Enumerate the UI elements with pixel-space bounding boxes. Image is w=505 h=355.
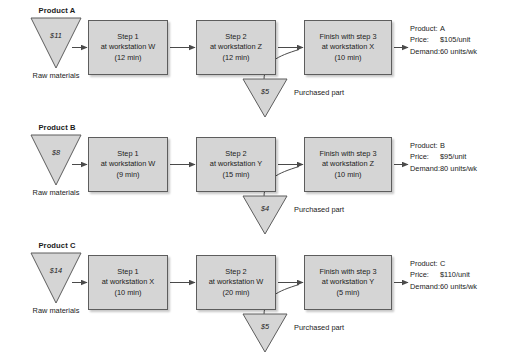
- step-station: at workstation W: [101, 159, 156, 170]
- process-box-step1: Step 1 at workstation W (9 min): [88, 137, 168, 192]
- step-title: Step 1: [117, 32, 138, 43]
- info-demand-line: Demand: 60 units/wk: [410, 281, 477, 292]
- step-title: Finish with step 3: [319, 149, 376, 160]
- purchased-part-caption: Purchased part: [294, 205, 344, 214]
- process-box-step2: Step 2 at workstation W (20 min): [196, 255, 276, 310]
- product-label: Product C: [22, 241, 92, 250]
- info-price-line: Price: $105/unit: [410, 34, 477, 45]
- info-demand-key: Demand:: [410, 46, 440, 57]
- step-station: at workstation Z: [322, 159, 374, 170]
- info-demand-value: 60 units/wk: [440, 281, 477, 292]
- info-price-key: Price:: [410, 34, 440, 45]
- raw-materials-triangle: $14: [30, 252, 82, 304]
- purchased-part-caption: Purchased part: [294, 323, 344, 332]
- info-price-line: Price: $110/unit: [410, 269, 477, 280]
- info-product-key: Product:: [410, 140, 440, 151]
- process-box-step1: Step 1 at workstation W (12 min): [88, 20, 168, 75]
- step-time: (10 min): [114, 288, 141, 299]
- info-price-key: Price:: [410, 151, 440, 162]
- process-box-step3: Finish with step 3 at workstation Y (5 m…: [304, 255, 392, 310]
- product-flow-row: Product C $14 Raw materials Step 1 at wo…: [0, 235, 505, 350]
- info-product-line: Product: C: [410, 258, 477, 269]
- step-station: at workstation Y: [210, 159, 262, 170]
- process-box-step2: Step 2 at workstation Z (12 min): [196, 20, 276, 75]
- info-price-value: $105/unit: [440, 34, 470, 45]
- purchased-part-caption: Purchased part: [294, 88, 344, 97]
- process-box-step2: Step 2 at workstation Y (15 min): [196, 137, 276, 192]
- purchased-part-triangle: $5: [242, 78, 288, 118]
- product-label: Product B: [22, 123, 92, 132]
- step-time: (12 min): [114, 53, 141, 64]
- step-station: at workstation W: [209, 277, 264, 288]
- purchased-part-triangle: $5: [242, 313, 288, 353]
- raw-materials-triangle: $11: [30, 17, 82, 69]
- info-demand-key: Demand:: [410, 281, 440, 292]
- step-station: at workstation X: [322, 42, 375, 53]
- raw-materials-triangle: $8: [30, 134, 82, 186]
- step-time: (10 min): [334, 53, 361, 64]
- step-title: Finish with step 3: [319, 32, 376, 43]
- process-box-step3: Finish with step 3 at workstation X (10 …: [304, 20, 392, 75]
- step-title: Step 1: [117, 267, 138, 278]
- process-box-step1: Step 1 at workstation X (10 min): [88, 255, 168, 310]
- output-info-block: Product: C Price: $110/unit Demand: 60 u…: [410, 258, 477, 292]
- step-title: Step 2: [225, 32, 246, 43]
- product-label: Product A: [22, 6, 92, 15]
- step-time: (12 min): [222, 53, 249, 64]
- step-title: Finish with step 3: [319, 267, 376, 278]
- info-demand-key: Demand:: [410, 163, 440, 174]
- step-station: at workstation W: [101, 42, 156, 53]
- info-price-value: $95/unit: [440, 151, 466, 162]
- info-price-key: Price:: [410, 269, 440, 280]
- step-station: at workstation Y: [322, 277, 374, 288]
- step-title: Step 1: [117, 149, 138, 160]
- info-price-value: $110/unit: [440, 269, 470, 280]
- step-time: (5 min): [337, 288, 360, 299]
- step-time: (20 min): [222, 288, 249, 299]
- product-flow-row: Product B $8 Raw materials Step 1 at wor…: [0, 117, 505, 232]
- step-time: (10 min): [334, 170, 361, 181]
- process-flow-diagram: Product A $11 Raw materials Step 1 at wo…: [0, 0, 505, 355]
- step-time: (9 min): [117, 170, 140, 181]
- step-station: at workstation Z: [210, 42, 262, 53]
- info-demand-value: 80 units/wk: [440, 163, 477, 174]
- info-product-line: Product: A: [410, 23, 477, 34]
- info-demand-line: Demand: 60 units/wk: [410, 46, 477, 57]
- purchased-part-triangle: $4: [242, 195, 288, 235]
- info-product-line: Product: B: [410, 140, 477, 151]
- output-info-block: Product: B Price: $95/unit Demand: 80 un…: [410, 140, 477, 174]
- step-title: Step 2: [225, 267, 246, 278]
- info-product-key: Product:: [410, 258, 440, 269]
- info-product-key: Product:: [410, 23, 440, 34]
- info-price-line: Price: $95/unit: [410, 151, 477, 162]
- info-product-value: C: [440, 258, 445, 269]
- info-product-value: B: [440, 140, 445, 151]
- output-info-block: Product: A Price: $105/unit Demand: 60 u…: [410, 23, 477, 57]
- step-station: at workstation X: [102, 277, 155, 288]
- process-box-step3: Finish with step 3 at workstation Z (10 …: [304, 137, 392, 192]
- info-product-value: A: [440, 23, 445, 34]
- step-title: Step 2: [225, 149, 246, 160]
- product-flow-row: Product A $11 Raw materials Step 1 at wo…: [0, 0, 505, 115]
- step-time: (15 min): [222, 170, 249, 181]
- info-demand-value: 60 units/wk: [440, 46, 477, 57]
- info-demand-line: Demand: 80 units/wk: [410, 163, 477, 174]
